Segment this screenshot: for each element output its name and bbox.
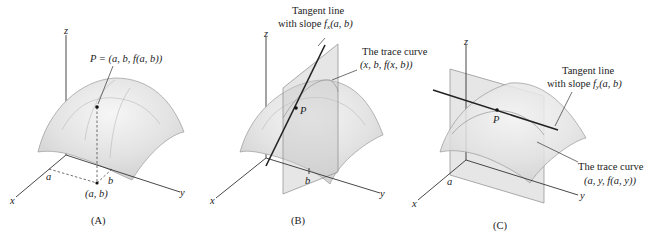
y-label-b: y bbox=[379, 188, 385, 199]
x-axis-a bbox=[16, 155, 66, 197]
dashed-a-to-ab bbox=[49, 169, 97, 183]
panel-b: z x y P b Tangent line with slope fx(a, … bbox=[209, 5, 428, 227]
tangent-label-line1-b: Tangent line bbox=[292, 5, 344, 16]
point-label-a: P = (a, b, f(a, b)) bbox=[89, 53, 163, 65]
panel-label-c: (C) bbox=[493, 220, 508, 232]
x-label-c: x bbox=[411, 198, 417, 209]
panel-label-a: (A) bbox=[91, 215, 106, 227]
x-axis-c bbox=[418, 160, 466, 200]
tangent-label-line1-c: Tangent line bbox=[562, 65, 614, 76]
tick-a-a: a bbox=[46, 171, 51, 182]
y-label-a: y bbox=[179, 187, 185, 198]
point-ab-a bbox=[95, 181, 98, 184]
base-point-label-a: (a, b) bbox=[85, 188, 108, 200]
point-label-c: P bbox=[492, 114, 500, 125]
y-label-c: y bbox=[579, 190, 585, 201]
tangent-label-line2-b: with slope fx(a, b) bbox=[278, 18, 353, 31]
z-label-c: z bbox=[463, 36, 468, 47]
tick-b-b: b bbox=[305, 175, 310, 186]
panel-a: z x y P = (a, b, f(a, b)) a b (a, b) (A) bbox=[9, 25, 185, 227]
tick-b-a: b bbox=[108, 175, 113, 186]
tick-a-c: a bbox=[447, 176, 452, 187]
trace-label-line1-c: The trace curve bbox=[578, 161, 644, 172]
surface-a bbox=[38, 78, 184, 180]
trace-label-line1-b: The trace curve bbox=[362, 46, 428, 57]
tangent-label-line2-c: with slope fy(a, b) bbox=[547, 78, 622, 91]
z-label-a: z bbox=[63, 25, 68, 36]
point-p-a bbox=[95, 105, 99, 109]
trace-label-line2-b: (x, b, f(x, b)) bbox=[360, 59, 413, 71]
figure-canvas: z x y P = (a, b, f(a, b)) a b (a, b) (A)… bbox=[0, 0, 648, 234]
panel-label-b: (B) bbox=[291, 215, 306, 227]
x-label-b: x bbox=[209, 195, 215, 206]
point-p-c bbox=[495, 108, 499, 112]
x-label-a: x bbox=[9, 195, 15, 206]
z-label-b: z bbox=[263, 28, 268, 39]
panel-c: z x y P a Tangent line with slope fy(a, … bbox=[411, 36, 644, 232]
x-axis-b bbox=[216, 158, 266, 198]
point-label-b: P bbox=[299, 105, 307, 116]
leader-tangent-b bbox=[318, 38, 325, 46]
point-p-b bbox=[294, 106, 298, 110]
trace-label-line2-c: (a, y, f(a, y)) bbox=[584, 175, 636, 187]
